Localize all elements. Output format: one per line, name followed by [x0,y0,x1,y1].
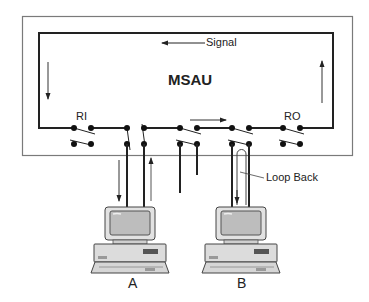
station-b-label: B [237,276,246,290]
msau-diagram [0,0,369,302]
computer-a-icon [91,207,169,273]
signal-label: Signal [206,37,237,48]
computer-b-icon [202,207,280,273]
loop-back-leader [240,172,264,178]
msau-title: MSAU [168,72,212,87]
loop-back-label: Loop Back [266,172,318,183]
ring-in-label: RI [76,111,87,122]
ring-out-label: RO [284,111,301,122]
station-a-label: A [128,276,137,290]
lobe-cables [127,144,249,210]
loop-back-path [237,150,246,206]
